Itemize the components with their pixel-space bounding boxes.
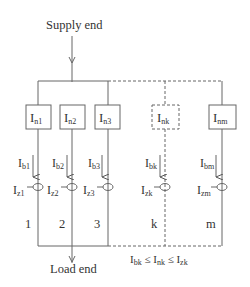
ib-label-k: Ibk	[145, 157, 157, 171]
ib-label-1: Ib1	[18, 157, 30, 171]
branch-number-1: 1	[25, 218, 31, 231]
ib-label-m: Ibm	[200, 157, 214, 171]
ib-label-2: Ib2	[52, 157, 64, 171]
iz-label-3: Iz3	[83, 184, 95, 198]
branch-number-2: 2	[59, 218, 65, 231]
circuit-diagram	[0, 0, 250, 287]
branch-number-k: k	[151, 218, 157, 231]
iz-label-2: Iz2	[47, 184, 59, 198]
load-end-label: Load end	[50, 263, 97, 276]
fuse-label-m: Inm	[213, 111, 228, 126]
branch-number-m: m	[206, 218, 216, 231]
condition-formula: Ibk ≤ Ink ≤ Izk	[130, 254, 188, 267]
iz-label-1: Iz1	[13, 184, 25, 198]
branch-number-3: 3	[94, 218, 100, 231]
fuse-label-1: In1	[30, 111, 42, 126]
iz-label-k: Izk	[141, 184, 153, 198]
fuse-label-3: In3	[99, 111, 111, 126]
ib-label-3: Ib3	[88, 157, 100, 171]
supply-end-label: Supply end	[46, 19, 103, 32]
fuse-label-2: In2	[64, 111, 76, 126]
fuse-label-k: Ink	[157, 111, 169, 126]
iz-label-m: Izm	[197, 184, 211, 198]
